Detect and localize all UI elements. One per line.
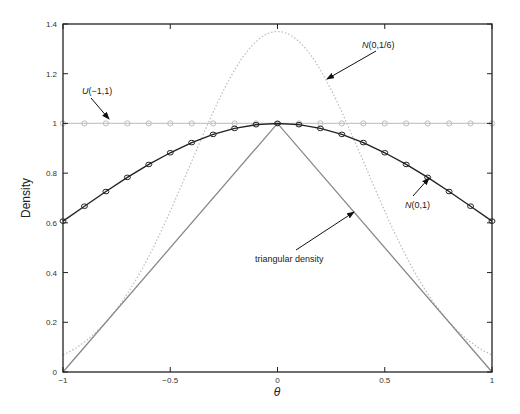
- y-tick-label: 1.2: [46, 70, 58, 79]
- x-tick-label: 0: [275, 376, 280, 385]
- y-tick-label: 0.6: [46, 219, 58, 228]
- annotation-label: U(−1,1): [82, 86, 112, 96]
- y-tick-label: 0.8: [46, 169, 58, 178]
- x-tick-label: −0.5: [162, 376, 178, 385]
- annotation-arrow: [327, 51, 376, 79]
- annotation-arrow: [296, 212, 354, 250]
- x-tick-label: 0.5: [379, 376, 391, 385]
- annotation-label: N(0,1/6): [362, 40, 395, 50]
- annotation-label: N(0,1): [405, 200, 430, 210]
- series-n-0-1-6: [63, 32, 492, 356]
- y-tick-label: 1: [53, 119, 58, 128]
- annotation-arrow: [413, 178, 429, 196]
- y-tick-label: 1.4: [46, 20, 58, 29]
- x-tick-label: −1: [58, 376, 68, 385]
- y-tick-label: 0: [53, 368, 58, 377]
- density-chart: 00.20.40.60.811.21.4−1−0.500.51 U(−1,1)N…: [0, 0, 520, 414]
- y-tick-label: 0.4: [46, 269, 58, 278]
- annotations: U(−1,1)N(0,1/6)N(0,1)triangular density: [82, 40, 430, 264]
- annotation-label: triangular density: [255, 254, 324, 264]
- series-triangular: [63, 123, 492, 372]
- plot-frame: [63, 24, 492, 372]
- y-axis-label: Density: [19, 178, 33, 218]
- y-tick-label: 0.2: [46, 318, 58, 327]
- x-tick-label: 1: [490, 376, 495, 385]
- annotation-arrow: [91, 98, 109, 119]
- x-axis-label: θ: [274, 385, 281, 399]
